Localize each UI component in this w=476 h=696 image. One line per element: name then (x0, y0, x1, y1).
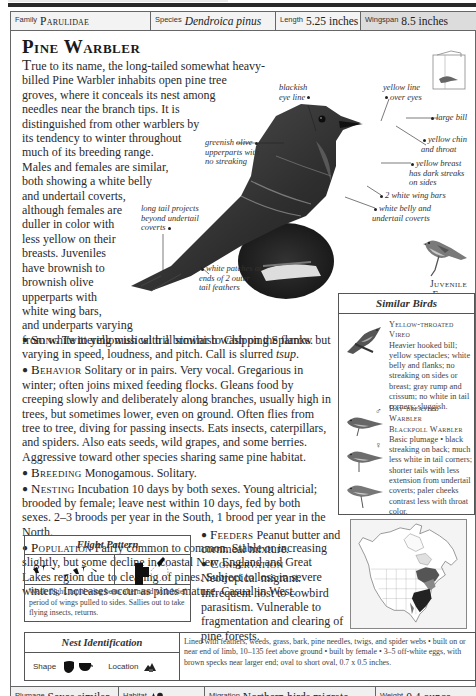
juvenile-female-illustration (421, 236, 471, 278)
previous-page-edge (8, 0, 228, 2)
flight-pattern-title: Flight Pattern (25, 536, 190, 555)
section-breeding: ●Breeding Monogamous. Solitary. (22, 466, 332, 480)
habitat-coniferous-forest-icon (150, 692, 164, 696)
intro-line: duller in color with (22, 217, 342, 231)
migration-cell: Migration Northern birds migrate (205, 687, 376, 696)
family-label: Family (15, 15, 37, 24)
nest-identification-left: Nest Identification Shape Location (25, 633, 180, 680)
intro-line: although females are (22, 203, 342, 217)
intro-line: and undertail coverts, (22, 189, 342, 203)
nest-shape-row: Shape Location (25, 653, 179, 680)
yellow-throated-vireo-illustration (343, 324, 385, 358)
field-guide-icon (431, 49, 467, 91)
species-label: Species (155, 15, 182, 24)
flight-path-birds-icon (25, 555, 115, 585)
similar-birds-title: Similar Birds (339, 294, 474, 314)
intro-line: True to its name, the long-tailed somewh… (22, 58, 342, 73)
intro-paragraph: True to its name, the long-tailed somewh… (22, 58, 342, 347)
intro-line: billed Pine Warbler inhabits open pine t… (22, 73, 342, 87)
intro-line: needles near the branch tips. It is (22, 102, 342, 116)
annotation-yellow-line: yellow line over eyes (383, 83, 422, 102)
plumage-cell: Plumage Sexes similar (11, 687, 119, 696)
similar-bird-vireo: Yellow-throated Vireo Heavier hooked bil… (389, 320, 473, 413)
weight-value: 0.4 ounce (406, 691, 451, 696)
top-rule (8, 3, 476, 7)
right-column-sections: ●Feeders Peanut butter and cornmeal mixt… (201, 528, 346, 643)
wingspan-value: 8.5 inches (401, 15, 448, 27)
nest-identification-box: Nest Identification Shape Location Lined… (24, 632, 476, 681)
intro-line: have brownish to (22, 261, 342, 275)
plumage-label: Plumage (15, 691, 45, 696)
annotation-wing-bars: 2 white wing bars (378, 191, 446, 201)
nest-shape-label: Shape (33, 662, 56, 671)
family-value: Parulidae (40, 15, 89, 27)
intro-line: Males and females are similar, (22, 160, 342, 174)
migration-value: Northern birds migrate (243, 691, 348, 696)
sally-flight-icon (115, 555, 191, 585)
nest-identification-title: Nest Identification (25, 633, 179, 653)
intro-line: both showing a white belly (22, 174, 342, 188)
flight-pattern-icons (25, 555, 190, 585)
nest-description: Lined with feathers, weeds, grass, bark,… (180, 633, 475, 680)
section-conservation: ●ConservationNeotropical migrant. Infreq… (201, 557, 346, 643)
habitat-cell: Habitat (119, 687, 205, 696)
flight-pattern-description: Weak flight, rapid wing beats alternated… (25, 585, 190, 621)
blackpoll-warbler-female-illustration (343, 480, 385, 510)
habitat-label: Habitat (123, 691, 147, 696)
length-label: Length (280, 15, 303, 24)
header-strip: Family Parulidae Species Dendroica pinus… (11, 11, 476, 31)
intro-line: and underparts varying (22, 318, 342, 332)
weight-label: Weight (380, 691, 403, 696)
nest-shape-cup-icons (62, 660, 94, 674)
section-behavior: ●Behavior Solitary or in pairs. Very voc… (22, 363, 332, 464)
section-song: ●Song Twittering musical trill similar t… (22, 333, 332, 362)
intro-line: upperparts with (22, 290, 342, 304)
length-value: 5.25 inches (306, 15, 358, 27)
intro-line: breasts. Juveniles (22, 246, 342, 260)
intro-line: groves, where it conceals its nest among (22, 88, 342, 102)
annotation-yellow-chin: yellow chin and throat (421, 135, 467, 154)
section-feeders: ●Feeders Peanut butter and cornmeal mixt… (201, 528, 346, 557)
intro-line: much of its breeding range. (22, 145, 342, 159)
plumage-value: Sexes similar (48, 691, 110, 696)
migration-label: Migration (209, 691, 240, 696)
flight-pattern-box: Flight Pattern (24, 535, 191, 622)
species-title: Pine Warbler (22, 36, 140, 58)
intro-line: distinguished from other warblers by (22, 117, 342, 131)
annotation-large-bill: large bill (429, 113, 467, 123)
footer-strip: Plumage Sexes similar Habitat Migration … (11, 686, 476, 696)
species-value: Dendroica pinus (185, 15, 262, 27)
annotation-yellow-breast: yellow breast has dark streaks on sides (409, 159, 464, 188)
family-cell: Family Parulidae (11, 12, 151, 30)
blackpoll-warbler-illustration (343, 446, 385, 474)
intro-line: brownish olive (22, 275, 342, 289)
species-cell: Species Dendroica pinus (151, 12, 276, 30)
nest-location-tree-icon (142, 661, 158, 673)
bay-breasted-warbler-illustration (343, 412, 385, 438)
intro-line: white wing bars, (22, 304, 342, 318)
similar-birds-box: Similar Birds Yellow-throated Vireo Heav… (338, 293, 475, 515)
annotation-white-belly: white belly and undertail coverts (372, 204, 431, 223)
similar-bird-warblers: Bay-breasted Warbler Blackpoll Warbler B… (389, 404, 473, 517)
wingspan-label: Wingspan (365, 15, 398, 24)
flight-path-diagram (25, 555, 115, 584)
range-map (350, 519, 467, 629)
length-cell: Length 5.25 inches (276, 12, 361, 30)
intro-line: less yellow on their (22, 232, 342, 246)
intro-drop-cap: T (22, 57, 31, 73)
weight-cell: Weight 0.4 ounce (376, 687, 476, 696)
intro-line: its tendency to winter throughout (22, 131, 342, 145)
species-page: Family Parulidae Species Dendroica pinus… (10, 11, 476, 696)
sally-flight-diagram (115, 555, 191, 584)
wingspan-cell: Wingspan 8.5 inches (361, 12, 476, 30)
nest-location-label: Location (108, 662, 138, 671)
